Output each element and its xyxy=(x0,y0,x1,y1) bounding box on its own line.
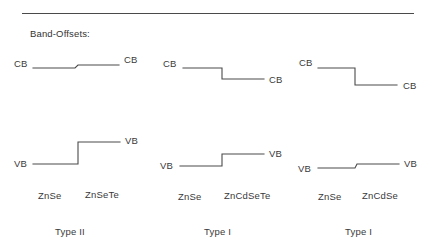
panel2-material-right-label: ZnCdSeTe xyxy=(224,190,270,201)
panel1-vb-left-label: VB xyxy=(14,158,27,169)
panel3-vb-left-label: VB xyxy=(298,163,311,174)
panel1-material-right-label: ZnSeTe xyxy=(85,189,119,200)
panel2-material-left-label: ZnSe xyxy=(178,191,202,202)
panel3-material-left-label: ZnSe xyxy=(318,191,342,202)
panel3-cb-left-label: CB xyxy=(299,57,313,68)
panel1-type-label: Type II xyxy=(55,226,85,237)
panel2-conduction-band-line xyxy=(183,68,264,79)
panel1-vb-right-label: VB xyxy=(125,135,138,146)
panel1-cb-right-label: CB xyxy=(124,54,138,65)
panel1-cb-left-label: CB xyxy=(14,58,28,69)
panel2-cb-right-label: CB xyxy=(269,74,283,85)
panel2-vb-left-label: VB xyxy=(160,160,173,171)
panel3-cb-right-label: CB xyxy=(403,80,417,91)
panel1-conduction-band-line xyxy=(33,65,119,68)
panel2-valence-band-line xyxy=(180,154,264,166)
band-offset-figure: Band-Offsets: CB CB VB VB ZnSe ZnSeTe Ty… xyxy=(0,0,438,251)
panel2-vb-right-label: VB xyxy=(269,148,282,159)
panel3-material-right-label: ZnCdSe xyxy=(362,190,398,201)
panel3-vb-right-label: VB xyxy=(404,158,417,169)
panel1-material-left-label: ZnSe xyxy=(38,190,62,201)
panel2-type-label: Type I xyxy=(204,226,231,237)
panel3-valence-band-line xyxy=(318,164,399,168)
panel3-conduction-band-line xyxy=(318,68,397,85)
panel3-type-label: Type I xyxy=(345,226,372,237)
panel2-cb-left-label: CB xyxy=(163,58,177,69)
panel1-valence-band-line xyxy=(33,142,120,164)
band-diagram-lines xyxy=(0,0,438,251)
